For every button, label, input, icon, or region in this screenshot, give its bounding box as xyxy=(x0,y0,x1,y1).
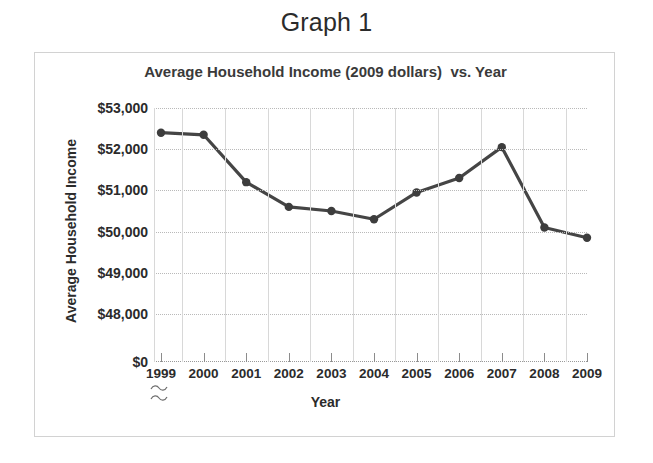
data-point-marker xyxy=(157,129,165,137)
x-tick-label: 1999 xyxy=(146,366,176,381)
gridline-vertical xyxy=(395,108,396,362)
figure-heading: Graph 1 xyxy=(0,8,653,37)
x-tick-label: 2009 xyxy=(572,366,602,381)
y-tick-label: $50,000 xyxy=(97,224,148,240)
gridline-vertical xyxy=(353,108,354,362)
x-axis-tick xyxy=(161,353,162,362)
data-point-marker xyxy=(327,207,335,215)
x-axis-tick xyxy=(459,353,460,362)
data-point-marker xyxy=(285,203,293,211)
x-axis-tick xyxy=(289,353,290,362)
x-axis-tick xyxy=(417,353,418,362)
x-axis-tick xyxy=(587,353,588,362)
x-tick-label: 2000 xyxy=(189,366,219,381)
x-tick-label: 2002 xyxy=(274,366,304,381)
gridline-horizontal xyxy=(154,190,587,191)
x-axis-tick xyxy=(374,353,375,362)
data-point-marker xyxy=(540,223,548,231)
x-tick-label: 2006 xyxy=(444,366,474,381)
data-point-marker xyxy=(370,215,378,223)
data-point-marker xyxy=(199,131,207,139)
y-axis-tick-labels: $53,000$52,000$51,000$50,000$49,000$48,0… xyxy=(35,105,148,425)
gridline-vertical xyxy=(438,108,439,362)
x-tick-label: 2007 xyxy=(487,366,517,381)
gridline-horizontal xyxy=(154,273,587,274)
gridline-vertical xyxy=(481,108,482,362)
x-tick-label: 2001 xyxy=(231,366,261,381)
x-tick-label: 2008 xyxy=(529,366,559,381)
gridline-horizontal xyxy=(154,108,587,109)
gridline-vertical xyxy=(182,108,183,362)
chart-frame: Average Household Income (2009 dollars) … xyxy=(34,52,615,437)
x-axis-tick xyxy=(204,353,205,362)
gridline-horizontal xyxy=(154,149,587,150)
gridline-vertical xyxy=(523,108,524,362)
x-tick-label: 2005 xyxy=(402,366,432,381)
x-axis-tick-labels: 1999200020012002200320042005200620072008… xyxy=(154,366,587,386)
x-tick-label: 2003 xyxy=(316,366,346,381)
y-tick-label: $53,000 xyxy=(97,100,148,116)
gridline-vertical xyxy=(566,108,567,362)
y-axis-line xyxy=(154,108,155,362)
gridline-vertical xyxy=(225,108,226,362)
x-axis-tick xyxy=(331,353,332,362)
y-tick-label: $52,000 xyxy=(97,141,148,157)
gridline-vertical xyxy=(310,108,311,362)
x-axis-tick xyxy=(246,353,247,362)
plot-area xyxy=(154,108,587,362)
data-point-marker xyxy=(242,178,250,186)
gridline-horizontal xyxy=(154,314,587,315)
x-axis-tick xyxy=(502,353,503,362)
data-point-marker xyxy=(583,234,591,242)
chart-title: Average Household Income (2009 dollars) … xyxy=(35,63,616,80)
gridline-horizontal xyxy=(154,232,587,233)
x-axis-title: Year xyxy=(35,394,616,410)
x-axis-tick xyxy=(544,353,545,362)
income-line-series xyxy=(154,108,587,362)
gridline-vertical xyxy=(268,108,269,362)
x-tick-label: 2004 xyxy=(359,366,389,381)
data-point-marker xyxy=(455,174,463,182)
y-tick-label: $48,000 xyxy=(97,306,148,322)
y-tick-label: $51,000 xyxy=(97,182,148,198)
y-tick-label: $49,000 xyxy=(97,265,148,281)
